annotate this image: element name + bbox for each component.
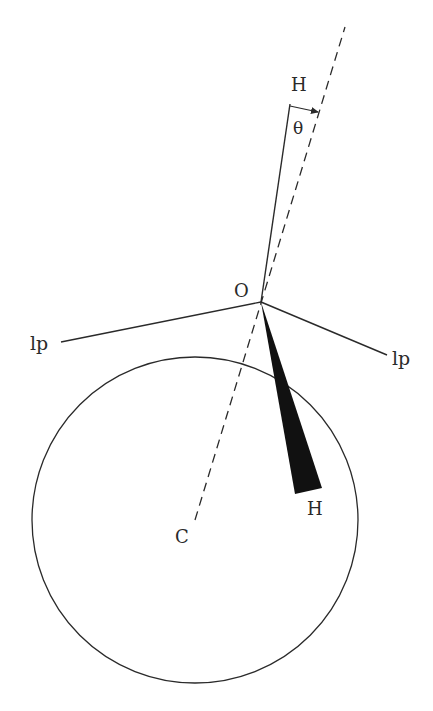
label-bottom-h: H (307, 498, 323, 519)
lone-pair-right-line (261, 302, 387, 355)
dashed-axis-line (195, 27, 345, 520)
label-lone-pair-left: lp (30, 332, 48, 354)
label-top-h: H (291, 74, 307, 95)
label-oxygen: O (234, 280, 249, 301)
label-center: C (175, 526, 189, 547)
lone-pair-left-line (61, 302, 261, 342)
oh-bond-top (261, 104, 290, 302)
surface-water-bond-diagram: H θ O lp lp H C (0, 0, 433, 711)
label-lone-pair-right: lp (392, 347, 410, 369)
theta-angle-arrow (290, 106, 318, 112)
oh-bond-wedge (261, 302, 322, 494)
label-theta: θ (293, 118, 303, 138)
